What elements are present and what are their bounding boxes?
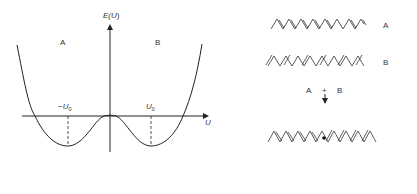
combine-left-label: A [306, 86, 312, 95]
combine-right-label: B [337, 86, 342, 95]
region-a-label: A [60, 38, 66, 47]
chain-a [271, 19, 366, 29]
chain-a-label: A [383, 21, 389, 30]
x-axis-label: U [205, 118, 211, 127]
chain-b [266, 55, 364, 66]
defect-dot [322, 136, 326, 140]
chain-combined [268, 130, 376, 142]
chain-b-label: B [383, 58, 388, 67]
min-right-label: U0 [146, 102, 155, 112]
y-axis-label: E(U) [103, 11, 120, 20]
region-b-label: B [155, 38, 160, 47]
combine-plus-label: + [322, 86, 327, 95]
min-left-label: −U0 [58, 102, 72, 112]
chain-diagrams [266, 19, 376, 142]
potential-plot: E(U) U A B −U0 U0 [17, 11, 211, 152]
figure-canvas: E(U) U A B −U0 U0 [0, 0, 417, 194]
